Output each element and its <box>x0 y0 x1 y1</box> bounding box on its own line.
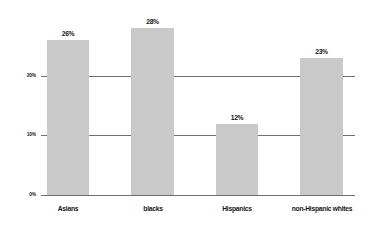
ytick-label-10: 10% <box>20 131 36 138</box>
bar-value-asians: 26% <box>50 29 85 38</box>
plot-area: 20% 10% 0% 26% 28% 12% 23% Asians blacks… <box>0 0 374 231</box>
category-label-non-hispanic-whites: non-Hispanic whites <box>280 204 364 214</box>
category-label-blacks: blacks <box>119 204 186 214</box>
ytick-label-0: 0% <box>20 191 36 198</box>
category-label-asians: Asians <box>34 204 101 214</box>
bar-chart: 20% 10% 0% 26% 28% 12% 23% Asians blacks… <box>0 0 374 231</box>
bar-asians <box>47 40 89 195</box>
bar-hispanics <box>216 124 258 195</box>
bar-value-non-hispanic-whites: 23% <box>303 47 339 56</box>
ytick-label-20: 20% <box>20 72 36 79</box>
axis-baseline <box>41 195 355 196</box>
bar-value-blacks: 28% <box>134 17 170 26</box>
bar-non-hispanic-whites <box>300 58 343 195</box>
bar-blacks <box>131 28 174 195</box>
category-label-hispanics: Hispanics <box>203 204 270 214</box>
bar-value-hispanics: 12% <box>219 113 254 122</box>
